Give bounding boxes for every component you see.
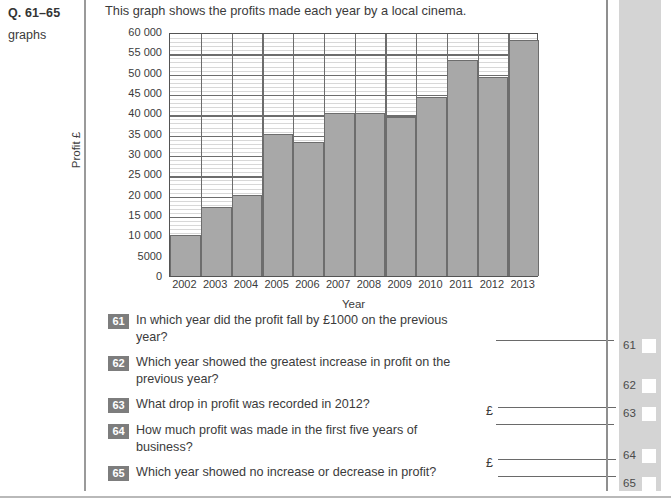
left-vertical-divider: [84, 0, 86, 491]
question-item: 61In which year did the profit fall by £…: [98, 312, 603, 354]
gridline-minor: [170, 38, 537, 39]
question-number-badge: 61: [108, 314, 129, 329]
gridline-vertical: [478, 34, 479, 276]
question-item: 62Which year showed the greatest increas…: [98, 354, 603, 396]
bar-2007: [324, 113, 355, 276]
y-tick-label: 40 000: [106, 107, 162, 119]
y-tick-label: 20 000: [106, 189, 162, 201]
profit-bar-chart: Profit £ 60 00055 00050 00045 00040 0003…: [98, 26, 548, 311]
answer-write-in-line[interactable]: [496, 340, 614, 341]
answer-margin-row: 65: [619, 476, 661, 494]
gridline-vertical: [201, 34, 202, 276]
right-vertical-divider: [606, 0, 608, 491]
answer-margin-row: 61: [619, 338, 661, 356]
question-text: Which year showed the greatest increase …: [136, 354, 466, 387]
question-item: 64How much profit was made in the first …: [98, 422, 603, 464]
answer-checkbox[interactable]: [642, 407, 656, 421]
y-tick-label: 50 000: [106, 67, 162, 79]
question-number-badge: 65: [108, 466, 129, 481]
gridline-minor: [170, 58, 537, 59]
answer-checkbox[interactable]: [642, 477, 656, 491]
answer-checkbox[interactable]: [642, 449, 656, 463]
y-tick-label: 10 000: [106, 229, 162, 241]
gridline-vertical: [262, 34, 263, 276]
answer-margin-number: 64: [623, 449, 636, 461]
y-tick-label: 60 000: [106, 26, 162, 38]
answer-write-in-line[interactable]: [498, 476, 616, 477]
y-tick-label: 35 000: [106, 128, 162, 140]
gridline-minor: [170, 67, 537, 68]
intro-text: This graph shows the profits made each y…: [105, 3, 466, 18]
answer-checkbox[interactable]: [642, 379, 656, 393]
bar-2008: [355, 113, 386, 276]
gridline-vertical: [232, 34, 233, 276]
question-item: 65Which year showed no increase or decre…: [98, 464, 603, 504]
question-number-badge: 63: [108, 398, 129, 413]
answer-write-in-line[interactable]: [498, 407, 616, 408]
bar-2012: [478, 77, 509, 276]
answer-margin-number: 62: [623, 379, 636, 391]
gridline-vertical: [416, 34, 417, 276]
bar-2011: [447, 60, 478, 276]
question-text: In which year did the profit fall by £10…: [136, 312, 466, 345]
x-axis-label: Year: [169, 298, 538, 310]
gridline-minor: [170, 42, 537, 43]
gridline-minor: [170, 46, 537, 47]
gridline-major: [170, 54, 537, 55]
topic-label: graphs: [8, 28, 46, 42]
gridline-minor: [170, 62, 537, 63]
gridline-vertical: [508, 34, 509, 276]
bar-2002: [170, 235, 201, 276]
answer-margin-number: 65: [623, 477, 636, 489]
bar-2003: [201, 207, 232, 276]
y-tick-label: 30 000: [106, 148, 162, 160]
gridline-vertical: [385, 34, 386, 276]
y-tick-label: 25 000: [106, 168, 162, 180]
bar-2004: [232, 195, 263, 276]
question-number-badge: 62: [108, 356, 129, 371]
gridline-minor: [170, 50, 537, 51]
answer-margin-row: 62: [619, 378, 661, 396]
left-margin-column: Q. 61–65 graphs: [0, 0, 84, 504]
y-tick-label: 0: [106, 270, 162, 282]
bar-2005: [262, 134, 293, 276]
gridline-minor: [170, 71, 537, 72]
bar-2010: [416, 97, 447, 276]
bottom-rule: [0, 496, 671, 498]
bar-2009: [385, 117, 416, 276]
gridline-vertical: [447, 34, 448, 276]
y-axis-ticks: 60 00055 00050 00045 00040 00035 00030 0…: [98, 26, 162, 278]
answer-margin-number: 61: [623, 339, 636, 351]
worksheet-page: Q. 61–65 graphs This graph shows the pro…: [0, 0, 671, 504]
x-tick-label: 2013: [503, 278, 543, 290]
question-number-badge: 64: [108, 424, 129, 439]
pound-symbol: £: [486, 404, 493, 418]
question-text: What drop in profit was recorded in 2012…: [136, 396, 466, 413]
bar-2013: [508, 40, 539, 276]
answer-checkbox[interactable]: [642, 339, 656, 353]
answer-margin-row: 63: [619, 406, 661, 424]
question-text: Which year showed no increase or decreas…: [136, 464, 466, 481]
answer-margin-row: 64: [619, 448, 661, 466]
gridline-vertical: [355, 34, 356, 276]
y-tick-label: 45 000: [106, 87, 162, 99]
answer-write-in-line[interactable]: [498, 459, 616, 460]
main-content: This graph shows the profits made each y…: [98, 0, 603, 504]
y-tick-label: 15 000: [106, 209, 162, 221]
plot-area: [169, 33, 538, 277]
y-axis-label: Profit £: [70, 90, 82, 210]
question-range-label: Q. 61–65: [8, 6, 60, 20]
gridline-vertical: [293, 34, 294, 276]
gridline-vertical: [324, 34, 325, 276]
bar-2006: [293, 142, 324, 276]
y-tick-label: 5000: [106, 250, 162, 262]
answer-margin-number: 63: [623, 407, 636, 419]
y-tick-label: 55 000: [106, 46, 162, 58]
question-text: How much profit was made in the first fi…: [136, 422, 466, 455]
